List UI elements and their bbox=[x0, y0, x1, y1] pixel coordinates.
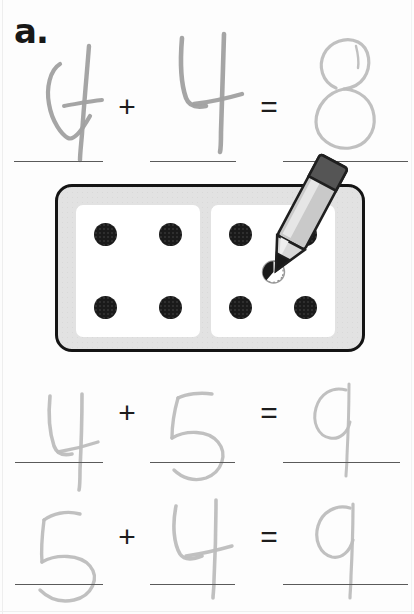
domino-right-half[interactable] bbox=[211, 205, 335, 337]
handwritten-digit-left-row2 bbox=[38, 392, 100, 490]
answer-line-row3-1[interactable] bbox=[15, 584, 103, 585]
center-pip-being-drawn bbox=[261, 259, 286, 284]
pip-left-top-left bbox=[94, 223, 117, 246]
operator-equals-row1: = bbox=[252, 92, 286, 122]
equation-row-3: + = bbox=[0, 492, 414, 592]
equation-row-2: + = bbox=[0, 370, 414, 470]
pip-right-bottom-left bbox=[229, 296, 252, 319]
operator-plus-row1: + bbox=[112, 92, 142, 122]
answer-line-row2-2[interactable] bbox=[150, 462, 235, 463]
operator-plus-row2: + bbox=[112, 398, 142, 428]
answer-line-row3-2[interactable] bbox=[150, 584, 235, 585]
pip-left-bottom-left bbox=[94, 296, 117, 319]
pip-right-top-right bbox=[294, 223, 317, 246]
operator-equals-row3: = bbox=[252, 522, 286, 552]
answer-line-row3-3[interactable] bbox=[283, 584, 408, 585]
handwritten-sum-row1 bbox=[306, 32, 384, 154]
operator-equals-row2: = bbox=[252, 398, 286, 428]
handwritten-digit-left-row1 bbox=[40, 42, 106, 160]
answer-line-row1-3[interactable] bbox=[283, 161, 408, 162]
domino-left-half[interactable] bbox=[76, 205, 200, 337]
handwritten-digit-right-row2 bbox=[160, 386, 232, 484]
worksheet-page: a. + = bbox=[0, 0, 414, 614]
answer-line-row2-1[interactable] bbox=[15, 462, 103, 463]
domino-tile[interactable] bbox=[55, 184, 365, 352]
pip-right-top-left bbox=[229, 223, 252, 246]
domino-body bbox=[55, 184, 365, 352]
operator-plus-row3: + bbox=[112, 522, 142, 552]
pip-right-bottom-right bbox=[294, 296, 317, 319]
pip-left-bottom-right bbox=[159, 296, 182, 319]
scan-edge-bottom bbox=[0, 611, 414, 612]
handwritten-digit-right-row3 bbox=[166, 498, 236, 598]
handwritten-digit-right-row1 bbox=[172, 32, 244, 152]
answer-line-row1-2[interactable] bbox=[150, 161, 236, 162]
answer-line-row2-3[interactable] bbox=[283, 462, 400, 463]
equation-row-1: + = bbox=[0, 0, 414, 170]
handwritten-digit-left-row3 bbox=[28, 504, 102, 604]
answer-line-row1-1[interactable] bbox=[14, 161, 103, 162]
pip-left-top-right bbox=[159, 223, 182, 246]
